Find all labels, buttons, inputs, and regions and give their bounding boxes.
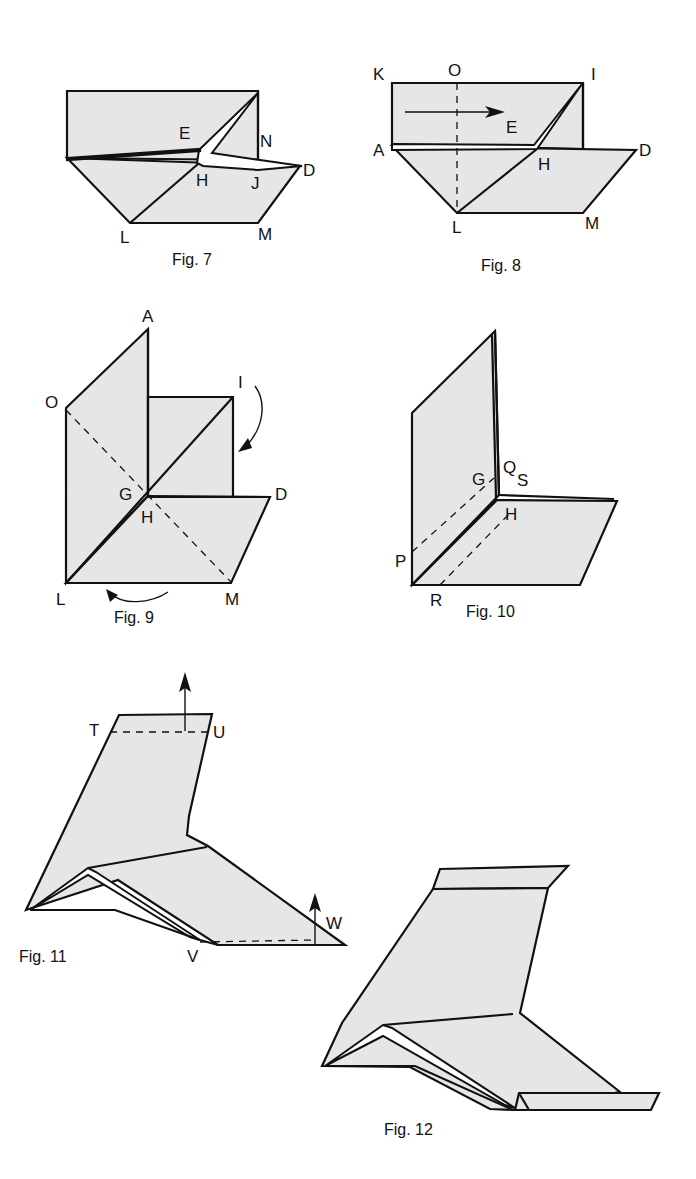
label-O: O [448,61,461,80]
label-H: H [505,505,517,524]
figure-7: E N H J D L M Fig. 7 [67,91,315,268]
label-D: D [303,161,315,180]
label-L: L [120,228,129,247]
label-N: N [260,132,272,151]
label-R: R [430,591,442,610]
label-M: M [585,214,599,233]
figure-11: T U V W Fig. 11 [19,672,345,966]
label-L: L [56,590,65,609]
label-H: H [196,171,208,190]
label-T: T [89,721,99,740]
label-W: W [326,914,342,933]
label-V: V [187,947,199,966]
label-P: P [395,552,406,571]
label-G: G [472,470,485,489]
label-D: D [639,141,651,160]
figure-7-caption: Fig. 7 [172,251,212,268]
origami-instructions-diagram: E N H J D L M Fig. 7 K O I E A H D L M F… [0,0,696,1179]
label-E: E [179,124,190,143]
label-U: U [213,723,225,742]
label-M: M [258,225,272,244]
figure-11-caption: Fig. 11 [19,948,67,965]
label-D: D [275,485,287,504]
figure-10-caption: Fig. 10 [466,603,515,620]
figure-9-caption: Fig. 9 [114,609,154,626]
label-Q: Q [503,458,516,477]
label-M: M [225,590,239,609]
label-J: J [251,174,260,193]
label-G: G [119,485,132,504]
label-A: A [373,141,385,160]
label-S: S [517,471,528,490]
figure-12: Fig. 12 [322,866,659,1138]
label-I: I [238,373,243,392]
label-L: L [452,218,461,237]
label-I: I [591,65,596,84]
label-O: O [45,393,58,412]
label-A: A [142,307,154,326]
figure-10: G Q S H P R Fig. 10 [395,331,617,620]
figure-8: K O I E A H D L M Fig. 8 [373,61,651,274]
label-E: E [506,118,517,137]
figure-9: A O I G H D L M Fig. 9 [45,307,287,626]
figure-8-caption: Fig. 8 [481,257,521,274]
label-H: H [141,508,153,527]
figure-12-caption: Fig. 12 [384,1121,433,1138]
label-H: H [538,155,550,174]
label-K: K [373,65,385,84]
